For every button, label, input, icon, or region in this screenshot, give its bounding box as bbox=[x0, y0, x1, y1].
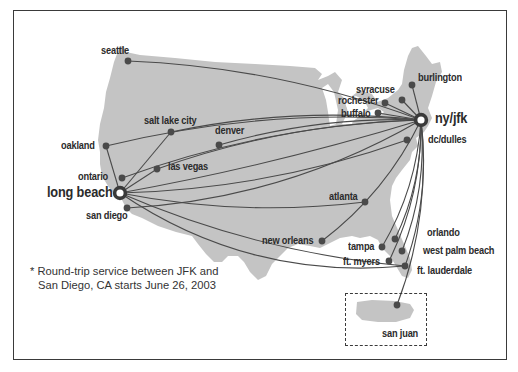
city-label-buffalo[interactable]: buffalo bbox=[341, 107, 371, 119]
city-dot-ftmyers[interactable] bbox=[386, 258, 393, 265]
city-label-dc-dulles[interactable]: dc/dulles bbox=[428, 133, 466, 145]
hub-label-ny-jfk[interactable]: ny/jfk bbox=[435, 110, 467, 126]
city-label-syracuse[interactable]: syracuse bbox=[356, 83, 395, 95]
city-label-tampa[interactable]: tampa bbox=[348, 240, 374, 252]
city-dot-atlanta[interactable] bbox=[362, 199, 369, 206]
city-label-burlington[interactable]: burlington bbox=[418, 71, 462, 83]
city-label-orlando[interactable]: orlando bbox=[427, 226, 460, 238]
city-dot-oakland[interactable] bbox=[103, 143, 110, 150]
hub-marker-lgb[interactable] bbox=[115, 188, 126, 199]
city-label-las-vegas[interactable]: las vegas bbox=[168, 160, 208, 172]
city-dot-slc[interactable] bbox=[168, 129, 175, 136]
city-label-denver[interactable]: denver bbox=[215, 124, 244, 136]
city-label-san-juan[interactable]: san juan bbox=[382, 327, 418, 339]
hub-marker-jfk[interactable] bbox=[416, 115, 427, 126]
city-dot-lasvegas[interactable] bbox=[154, 166, 161, 173]
city-label-atlanta[interactable]: atlanta bbox=[329, 190, 358, 202]
city-dot-dulles[interactable] bbox=[404, 137, 411, 144]
city-dot-orlando[interactable] bbox=[392, 236, 399, 243]
city-dot-ontario[interactable] bbox=[119, 175, 126, 182]
city-dot-rochester[interactable] bbox=[382, 100, 389, 107]
city-label-new-orleans[interactable]: new orleans bbox=[262, 234, 313, 246]
city-label-seattle[interactable]: seattle bbox=[101, 44, 129, 56]
city-dot-tampa[interactable] bbox=[379, 244, 386, 251]
city-label-ft-lauderdale[interactable]: ft. lauderdale bbox=[417, 264, 472, 276]
hub-label-long-beach[interactable]: long beach bbox=[47, 184, 113, 200]
footnote-line-1: * Round-trip service between JFK and bbox=[30, 265, 218, 277]
city-dot-syracuse[interactable] bbox=[399, 97, 406, 104]
city-dot-denver[interactable] bbox=[216, 142, 223, 149]
city-dot-neworleans[interactable] bbox=[319, 238, 326, 245]
footnote-line-2: San Diego, CA starts June 26, 2003 bbox=[30, 278, 218, 292]
city-label-salt-lake-city[interactable]: salt lake city bbox=[144, 114, 197, 126]
city-label-west-palm-beach[interactable]: west palm beach bbox=[423, 244, 494, 256]
city-dot-burlington[interactable] bbox=[409, 82, 416, 89]
city-label-oakland[interactable]: oakland bbox=[61, 139, 95, 151]
city-label-rochester[interactable]: rochester bbox=[338, 94, 379, 106]
city-label-san-diego[interactable]: san diego bbox=[86, 209, 128, 221]
city-dot-wpb[interactable] bbox=[399, 248, 406, 255]
city-dot-ftl[interactable] bbox=[402, 263, 409, 270]
footnote: * Round-trip service between JFK and San… bbox=[30, 264, 218, 292]
city-label-ft-myers[interactable]: ft. myers bbox=[343, 255, 380, 267]
city-dot-buffalo[interactable] bbox=[375, 110, 382, 117]
city-dot-seattle[interactable] bbox=[125, 58, 132, 65]
city-label-ontario[interactable]: ontario bbox=[78, 170, 108, 182]
